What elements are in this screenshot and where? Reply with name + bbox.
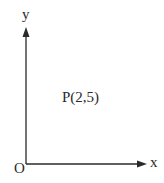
point-label: P(2,5) [62, 90, 99, 105]
x-axis-label: x [150, 155, 158, 170]
coordinate-diagram: y x O P(2,5) [0, 0, 164, 183]
origin-label: O [14, 161, 25, 176]
y-axis-label: y [22, 7, 30, 22]
x-axis-arrowhead-icon [137, 161, 147, 168]
y-axis-arrowhead-icon [23, 27, 30, 37]
